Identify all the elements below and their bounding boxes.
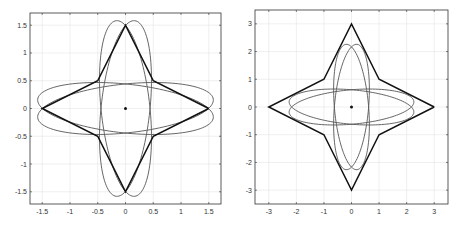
right-axes: -3-2-10123-3-2-10123	[246, 10, 448, 215]
y-tick-label: -3	[246, 187, 252, 194]
x-tick-label: -1	[321, 208, 327, 215]
x-tick-label: 2	[405, 208, 409, 215]
y-tick-label: 0	[23, 105, 27, 112]
x-tick-label: 3	[432, 208, 436, 215]
y-tick-label: 1.5	[17, 22, 27, 29]
x-tick-label: -1	[67, 208, 73, 215]
x-tick-label: 1	[377, 208, 381, 215]
x-tick-label: 1	[179, 208, 183, 215]
x-tick-label: 0.5	[148, 208, 158, 215]
left-plot: -1.5-1-0.500.511.5-1.5-1-0.500.511.5-3-2…	[0, 0, 470, 231]
y-tick-label: 1	[248, 76, 252, 83]
center-point	[124, 107, 127, 110]
y-tick-label: 0	[248, 104, 252, 111]
y-tick-label: -1.5	[15, 188, 27, 195]
y-tick-label: -1	[21, 161, 27, 168]
left-axes: -1.5-1-0.500.511.5-1.5-1-0.500.511.5	[15, 13, 221, 215]
x-tick-label: -3	[266, 208, 272, 215]
y-tick-label: 2	[248, 48, 252, 55]
y-tick-label: -0.5	[15, 133, 27, 140]
x-tick-label: 0	[350, 208, 354, 215]
x-tick-label: -2	[293, 208, 299, 215]
y-tick-label: 3	[248, 20, 252, 27]
x-tick-label: -0.5	[92, 208, 104, 215]
y-tick-label: 0.5	[17, 77, 27, 84]
x-tick-label: 1.5	[204, 208, 214, 215]
y-tick-label: 1	[23, 49, 27, 56]
x-tick-label: -1.5	[36, 208, 48, 215]
x-tick-label: 0	[124, 208, 128, 215]
y-tick-label: -1	[246, 131, 252, 138]
center-point	[350, 106, 353, 109]
y-tick-label: -2	[246, 159, 252, 166]
